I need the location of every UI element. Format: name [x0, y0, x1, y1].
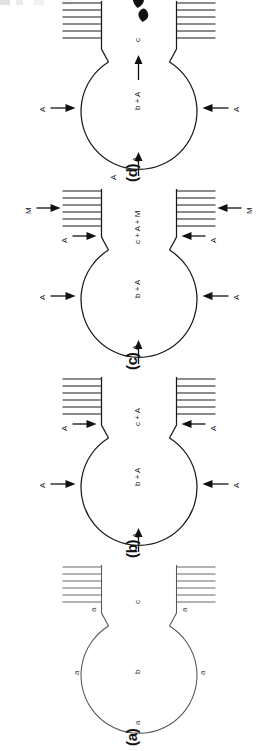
tag-bottom-A-b: A [232, 483, 240, 488]
channel-wall-lower [169, 377, 176, 438]
hatch-block-upper [62, 567, 101, 602]
panel-label-b: (b) [122, 540, 139, 558]
tag-channel-inlet-upper-b: A [60, 426, 68, 431]
arrow-bottom-inlet [202, 104, 228, 112]
tag-left-A-d: A [131, 157, 139, 162]
arrow-channel-inlet-lower [181, 420, 205, 428]
tag-bottom-A-d: A [232, 107, 240, 112]
panel-a: (a) a a a b a a c [0, 564, 277, 751]
channel-wall-upper [101, 565, 108, 626]
tag-left-A-b: A [131, 533, 139, 538]
arrow-hatch-inlet-upper [36, 204, 60, 212]
tag-top-A-b: A [38, 483, 46, 488]
panel-label-a: (a) [122, 728, 139, 745]
channel-label-a: c [133, 600, 141, 604]
channel-wall-upper [101, 377, 108, 438]
arrow-bottom-inlet [202, 480, 228, 488]
hatch-block-upper [62, 191, 101, 226]
arrow-channel-inlet-upper [72, 420, 96, 428]
reservoir-outline [81, 626, 197, 733]
tag-channel-inlet-lower-b: A [209, 426, 217, 431]
arrow-channel-outlet [134, 55, 142, 80]
channel-wall-lower [169, 189, 176, 250]
circle-label-d: b + A [133, 92, 141, 110]
boundary-label-channel-lower-a: a [180, 607, 188, 611]
arrow-hatch-inlet-lower [217, 204, 241, 212]
hatch-block-upper [62, 379, 101, 414]
panel-d: (d) A A A A b + A c [0, 0, 277, 188]
arrow-channel-inlet-upper [72, 232, 96, 240]
boundary-label-channel-upper-a: a [89, 607, 97, 611]
hatch-block-lower [176, 379, 215, 414]
tag-channel-inlet-upper-c: A [60, 238, 68, 243]
droplet-2 [132, 0, 143, 8]
arrow-channel-inlet-lower [181, 232, 205, 240]
tag-hatch-inlet-lower-c: M [245, 207, 253, 214]
circle-label-a: b [133, 669, 141, 673]
tag-channel-inlet-lower-c: A [209, 238, 217, 243]
channel-wall-upper [101, 1, 108, 62]
channel-label-d: c [133, 38, 141, 42]
panel-b: (b) A A A b + A A A c + A [0, 376, 277, 564]
figure-sheet: (d) A A A A b + A c [0, 0, 277, 751]
arrow-top-inlet [50, 104, 75, 112]
tag-bottom-A-c: A [232, 295, 240, 300]
droplet-group [132, 0, 147, 22]
channel-label-b: c + A [133, 408, 141, 426]
channel-wall-upper [101, 189, 108, 250]
boundary-label-bottom-a: a [198, 670, 206, 674]
circle-label-b: b + A [133, 468, 141, 486]
tag-top-A-c: A [38, 295, 46, 300]
panel-label-d: (d) [122, 164, 139, 182]
hatch-block-lower [176, 567, 215, 602]
arrow-top-inlet [50, 292, 75, 300]
panel-c: (c) A A A b + A A A M M c + A + M [0, 188, 277, 376]
channel-wall-lower [169, 1, 176, 62]
circle-label-c: b + A [133, 280, 141, 298]
hatch-block-lower [176, 191, 215, 226]
tag-left-A-c: A [131, 345, 139, 350]
channel-wall-lower [169, 565, 176, 626]
hatch-block-upper [62, 3, 101, 38]
boundary-label-left-a: a [133, 720, 141, 724]
hatch-block-lower [176, 3, 215, 38]
droplet-1 [138, 8, 148, 22]
tag-top-A-d: A [38, 107, 46, 112]
arrow-top-inlet [50, 480, 75, 488]
tag-hatch-inlet-upper-c: M [24, 207, 32, 214]
channel-label-c: c + A + M [133, 211, 141, 244]
boundary-label-top-a: a [72, 670, 80, 674]
inlet-label-left-d: A [109, 175, 117, 180]
arrow-bottom-inlet [202, 292, 228, 300]
panel-label-c: (c) [122, 353, 139, 370]
